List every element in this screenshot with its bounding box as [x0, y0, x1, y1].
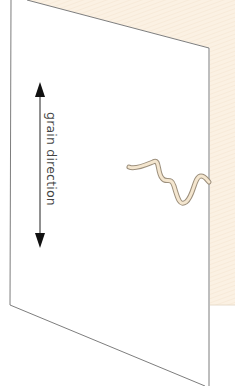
diagram-svg — [0, 0, 235, 386]
diagram-canvas: grain direction — [0, 0, 235, 386]
grain-direction-label: grain direction — [43, 112, 59, 232]
